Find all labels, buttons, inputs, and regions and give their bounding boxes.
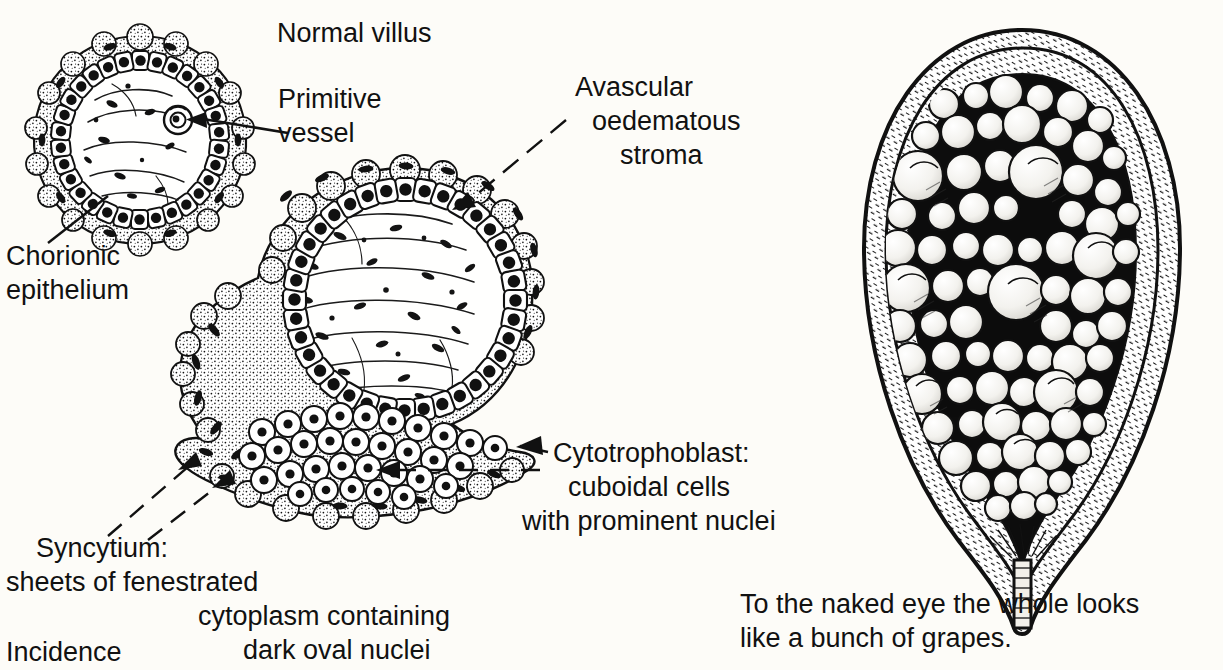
label-syncytium-line3: cytoplasm containing	[198, 601, 450, 631]
label-syncytium-line1: Syncytium:	[36, 533, 168, 563]
label-cytotrophoblast-line3: with prominent nuclei	[521, 506, 776, 536]
label-chorionic-epithelium-line1: Chorionic	[6, 241, 120, 271]
label-primitive-vessel-line2: vessel	[278, 118, 355, 148]
label-avascular-line1: Avascular	[575, 72, 693, 102]
label-chorionic-epithelium-line2: epithelium	[6, 275, 129, 305]
label-incidence: Incidence	[6, 637, 122, 667]
hydatidiform-mole-figure: Normal villus Primitive vessel Chorionic…	[0, 0, 1223, 670]
label-syncytium-line2: sheets of fenestrated	[6, 567, 258, 597]
label-syncytium-line4: dark oval nuclei	[243, 635, 431, 665]
label-avascular-line3: stroma	[620, 140, 704, 170]
label-primitive-vessel-line1: Primitive	[278, 84, 382, 114]
label-avascular-line2: oedematous	[592, 106, 741, 136]
label-cytotrophoblast-line2: cuboidal cells	[568, 472, 730, 502]
label-naked-eye-line1: To the naked eye the whole looks	[740, 589, 1139, 619]
label-normal-villus: Normal villus	[277, 18, 432, 48]
label-naked-eye-line2: like a bunch of grapes.	[740, 623, 1012, 653]
label-cytotrophoblast-line1: Cytotrophoblast:	[553, 438, 750, 468]
